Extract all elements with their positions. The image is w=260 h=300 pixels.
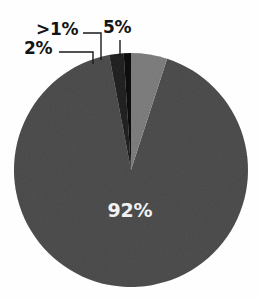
slice-label-92-percent: 92% [0, 201, 260, 220]
leader-line-gt1-percent [83, 33, 101, 60]
slice-label-5-percent: 5% [103, 19, 131, 36]
slice-label-2-percent: 2% [24, 40, 52, 57]
pie-chart-figure: >1% 2% 5% 92% [0, 0, 260, 300]
slice-label-gt1-percent: >1% [36, 21, 78, 38]
